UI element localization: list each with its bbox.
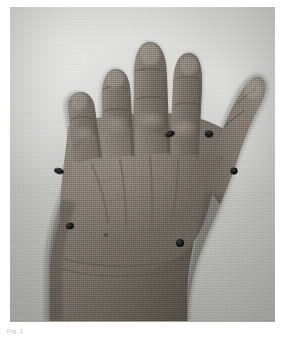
figure-caption: Fig. 1 [7,326,157,336]
film-grain-overlay [10,7,275,322]
page-root: Fig. 1 [0,0,282,338]
clinical-hand-photograph [10,7,275,322]
photo-frame [10,7,275,322]
